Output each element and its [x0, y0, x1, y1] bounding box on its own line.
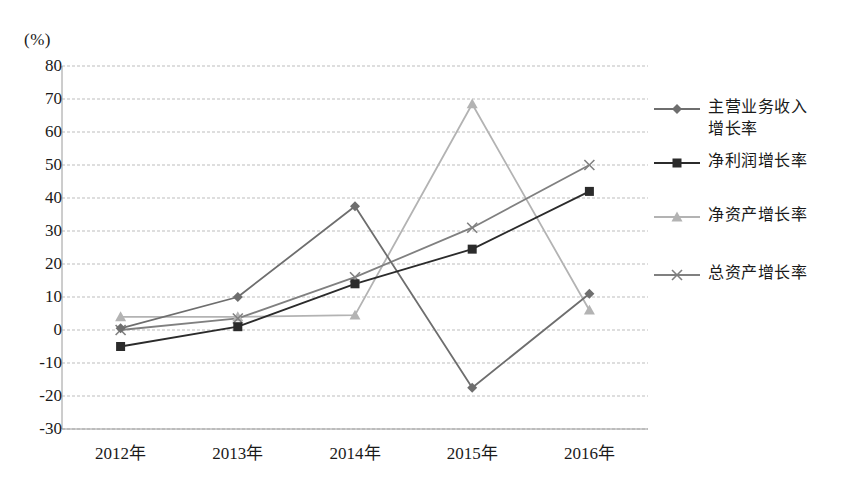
- legend-item[interactable]: 净利润增长率: [652, 150, 858, 174]
- x-axis-tick-label: 2012年: [95, 439, 146, 464]
- x-axis-tick-label: 2016年: [564, 439, 615, 464]
- legend-item[interactable]: 总资产增长率: [652, 262, 858, 286]
- legend-marker-triangle-icon: [652, 206, 702, 228]
- legend-item-label: 净利润增长率: [708, 150, 807, 172]
- data-point-marker-square: [673, 159, 682, 168]
- legend-marker-diamond-icon: [652, 98, 702, 120]
- legend-item-label: 总资产增长率: [708, 262, 807, 284]
- chart-legend: 主营业务收入 增长率净利润增长率净资产增长率总资产增长率: [652, 96, 858, 290]
- legend-item[interactable]: 主营业务收入 增长率: [652, 96, 858, 140]
- legend-item[interactable]: 净资产增长率: [652, 204, 858, 228]
- legend-marker-square-icon: [652, 152, 702, 174]
- legend-marker-cross-icon: [652, 264, 702, 286]
- chart-container: (%) 80706050403020100-10-20-30 2012年2013…: [0, 0, 858, 492]
- x-axis-tick-label: 2015年: [447, 439, 498, 464]
- x-axis-tick-label: 2013年: [212, 439, 263, 464]
- legend-item-label: 净资产增长率: [708, 204, 807, 226]
- data-point-marker-diamond: [672, 104, 682, 114]
- x-axis-tick-label: 2014年: [330, 439, 381, 464]
- legend-item-label: 主营业务收入 增长率: [708, 96, 807, 140]
